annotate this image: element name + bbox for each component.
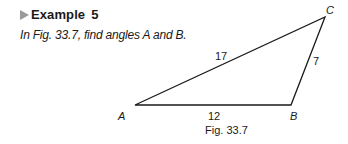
vertex-label-a: A xyxy=(117,110,125,122)
figure-caption: Fig. 33.7 xyxy=(205,124,248,136)
side-label-ab: 12 xyxy=(208,110,220,122)
vertex-label-b: B xyxy=(290,110,297,122)
side-label-ac: 17 xyxy=(215,50,227,62)
side-label-bc: 7 xyxy=(313,55,319,67)
triangle-figure: A B C 17 12 7 xyxy=(0,0,348,144)
triangle-abc xyxy=(135,17,325,105)
vertex-label-c: C xyxy=(326,4,334,16)
